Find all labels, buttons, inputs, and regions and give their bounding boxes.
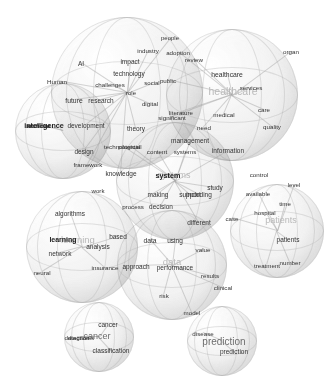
word-control: control xyxy=(250,171,269,178)
bubble-word-cloud-figure: healthcaresystemslearningdatapatientscan… xyxy=(0,0,334,390)
bubble-data xyxy=(117,210,227,320)
word-organ: organ xyxy=(283,48,299,55)
bubble-cancer xyxy=(64,302,134,372)
bubble-patients xyxy=(230,184,324,278)
bubble-prediction xyxy=(187,306,257,376)
